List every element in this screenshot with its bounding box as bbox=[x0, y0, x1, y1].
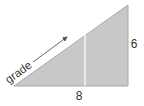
right-triangle bbox=[14, 5, 128, 86]
height-length-label: 6 bbox=[131, 37, 138, 51]
base-length-label: 8 bbox=[76, 89, 83, 103]
triangle-diagram: grade 8 6 bbox=[0, 0, 144, 106]
